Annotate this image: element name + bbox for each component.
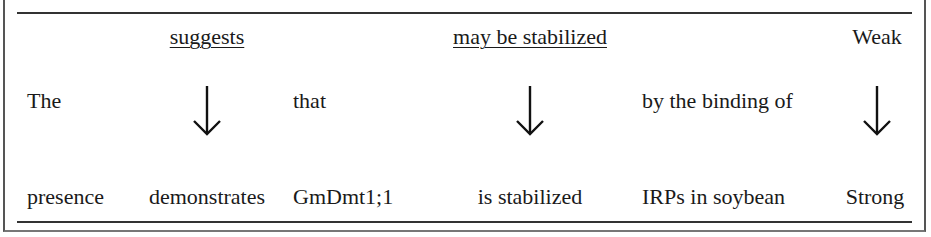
text-line: IRPs in soybean xyxy=(642,181,793,213)
weak-label: Weak xyxy=(852,21,902,53)
text-line: by the binding of xyxy=(642,85,793,117)
text-line: that xyxy=(293,85,393,117)
strong-label: Strong xyxy=(846,181,905,213)
column-object: that GmDmt1;1 mRNA xyxy=(293,21,393,237)
strong-verb-label: demonstrates xyxy=(149,181,265,213)
down-arrow-icon xyxy=(862,86,892,136)
top-rule xyxy=(17,12,912,14)
text-line: presence xyxy=(27,181,104,213)
text-line: The xyxy=(27,85,104,117)
text-line: GmDmt1;1 xyxy=(293,181,393,213)
down-arrow-icon xyxy=(192,86,222,136)
column-mechanism: by the binding of IRPs in soybean nodule… xyxy=(642,21,793,237)
down-arrow-icon xyxy=(515,86,545,136)
weak-verb-label: suggests xyxy=(170,21,245,53)
strong-claim-label: is stabilized xyxy=(478,181,582,213)
column-subject: The presence of an IRE motif xyxy=(27,21,104,237)
weak-claim-label: may be stabilized xyxy=(453,21,607,53)
